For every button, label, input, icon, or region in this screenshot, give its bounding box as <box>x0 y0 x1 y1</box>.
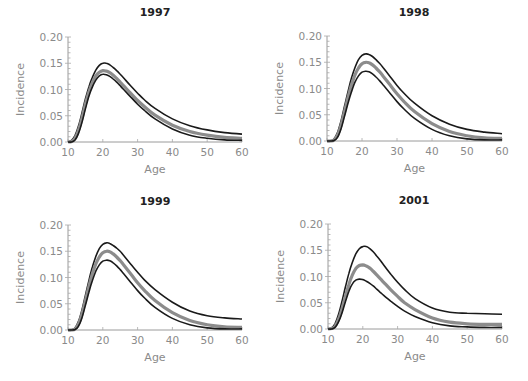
y-tick-label: 0.05 <box>299 109 322 121</box>
y-tick-label: 0.20 <box>40 219 63 231</box>
panel-1997: 1997 0.000.050.100.150.20102030405060Age… <box>14 6 249 176</box>
y-tick-label: 0.10 <box>40 84 63 96</box>
x-tick-label: 40 <box>166 334 179 346</box>
x-axis-label: Age <box>144 163 166 176</box>
x-tick-label: 30 <box>391 333 404 345</box>
x-tick-label: 20 <box>96 146 109 158</box>
y-tick-label: 0.20 <box>300 218 323 230</box>
x-axis-label: Age <box>404 350 426 363</box>
x-tick-label: 20 <box>356 333 369 345</box>
x-tick-label: 20 <box>355 145 368 157</box>
y-tick-label: 0.20 <box>299 30 322 42</box>
panel-title: 1998 <box>399 6 430 19</box>
panel-title: 1997 <box>140 6 171 19</box>
panel-1999: 1999 0.000.050.100.150.20102030405060Age… <box>14 195 249 364</box>
x-tick-label: 40 <box>426 333 439 345</box>
panel-2001: 2001 0.000.050.100.150.20102030405060Age… <box>274 194 509 363</box>
y-tick-label: 0.15 <box>40 245 63 257</box>
mean-curve <box>328 265 502 329</box>
x-tick-label: 30 <box>131 334 144 346</box>
y-tick-label: 0.05 <box>300 297 323 309</box>
x-tick-label: 60 <box>235 334 248 346</box>
x-tick-label: 60 <box>235 146 248 158</box>
upper-curve <box>68 63 242 142</box>
panel-title: 1999 <box>140 195 171 208</box>
x-axis-label: Age <box>144 351 166 364</box>
figure-grid: 1997 0.000.050.100.150.20102030405060Age… <box>0 0 528 381</box>
x-tick-label: 60 <box>495 333 508 345</box>
y-tick-label: 0.00 <box>40 324 63 336</box>
x-axis-label: Age <box>404 162 426 175</box>
x-tick-label: 10 <box>321 333 334 345</box>
x-tick-label: 10 <box>61 334 74 346</box>
x-tick-label: 60 <box>495 145 508 157</box>
y-tick-label: 0.10 <box>300 271 323 283</box>
x-tick-label: 10 <box>61 146 74 158</box>
y-tick-label: 0.00 <box>40 136 63 148</box>
y-tick-label: 0.05 <box>40 110 63 122</box>
y-axis-label: Incidence <box>273 62 286 115</box>
upper-curve <box>68 243 242 330</box>
y-axis-label: Incidence <box>14 63 27 116</box>
upper-curve <box>327 54 502 141</box>
x-tick-label: 30 <box>390 145 403 157</box>
x-tick-label: 30 <box>131 146 144 158</box>
lower-curve <box>328 279 502 329</box>
y-axis-label: Incidence <box>14 251 27 304</box>
x-tick-label: 50 <box>201 334 214 346</box>
x-tick-label: 50 <box>461 333 474 345</box>
y-tick-label: 0.15 <box>40 57 63 69</box>
x-tick-label: 50 <box>201 146 214 158</box>
x-tick-label: 20 <box>96 334 109 346</box>
panel-1998: 1998 0.000.050.100.150.20102030405060Age… <box>273 6 509 175</box>
panel-title: 2001 <box>399 194 430 207</box>
y-tick-label: 0.15 <box>300 244 323 256</box>
x-tick-label: 10 <box>320 145 333 157</box>
y-tick-label: 0.15 <box>299 56 322 68</box>
y-tick-label: 0.05 <box>40 298 63 310</box>
x-tick-label: 40 <box>166 146 179 158</box>
y-tick-label: 0.10 <box>299 83 322 95</box>
x-tick-label: 40 <box>425 145 438 157</box>
x-tick-label: 50 <box>460 145 473 157</box>
y-tick-label: 0.00 <box>300 323 323 335</box>
y-tick-label: 0.20 <box>40 31 63 43</box>
y-tick-label: 0.10 <box>40 272 63 284</box>
y-tick-label: 0.00 <box>299 135 322 147</box>
y-axis-label: Incidence <box>274 250 287 303</box>
